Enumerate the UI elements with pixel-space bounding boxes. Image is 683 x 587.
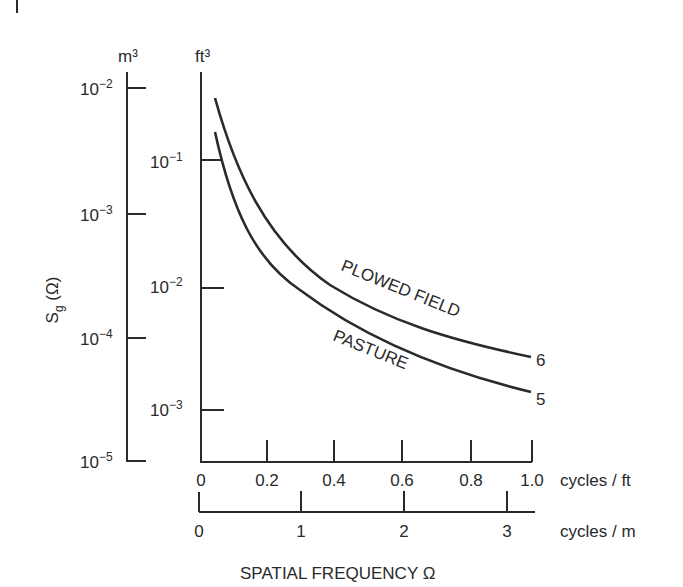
x-tick-m: 3 [502, 522, 511, 541]
x-tick-ft: 0 [196, 471, 205, 490]
x-tick-m: 1 [296, 522, 305, 541]
x-axis-m: 0 1 2 3 cycles / m [194, 491, 635, 541]
x-tick-ft: 1.0 [520, 471, 544, 490]
y-axis-ft3-unit: ft³ [195, 47, 210, 66]
x-tick-ft: 0.6 [390, 471, 414, 490]
y-axis-ft3: ft³ 10−1 10−2 10−3 [150, 47, 224, 463]
x-axis-label: SPATIAL FREQUENCY Ω [240, 564, 435, 583]
y-tick-m3: 10−4 [80, 327, 113, 349]
y-tick-ft3: 10−3 [150, 398, 183, 420]
x-tick-ft: 0.4 [322, 471, 346, 490]
x-axis-ft: 0 0.2 0.4 0.6 0.8 1.0 cycles / ft [196, 440, 631, 490]
plowed-field-label: PLOWED FIELD [339, 256, 463, 321]
y-tick-m3: 10−3 [80, 203, 113, 225]
y-tick-m3: 10−5 [80, 450, 113, 472]
x-axis-ft-unit: cycles / ft [560, 471, 631, 490]
x-tick-ft: 0.8 [459, 471, 483, 490]
y-axis-label: Sg (Ω) [43, 277, 66, 324]
y-axis-m3: m³ 10−2 10−3 10−4 10−5 [80, 47, 146, 472]
x-tick-m: 2 [399, 522, 408, 541]
y-tick-m3: 10−2 [80, 77, 113, 99]
y-tick-ft3: 10−1 [150, 150, 183, 172]
plowed-field-end-number: 6 [536, 351, 545, 370]
x-axis-m-unit: cycles / m [560, 522, 636, 541]
x-tick-ft: 0.2 [255, 471, 279, 490]
y-tick-ft3: 10−2 [150, 275, 183, 297]
y-axis-m3-unit: m³ [118, 47, 138, 66]
plowed-field-curve [215, 98, 531, 357]
x-tick-m: 0 [194, 522, 203, 541]
chart: m³ 10−2 10−3 10−4 10−5 Sg (Ω) ft³ 10−1 1… [0, 0, 683, 587]
pasture-end-number: 5 [536, 390, 545, 409]
